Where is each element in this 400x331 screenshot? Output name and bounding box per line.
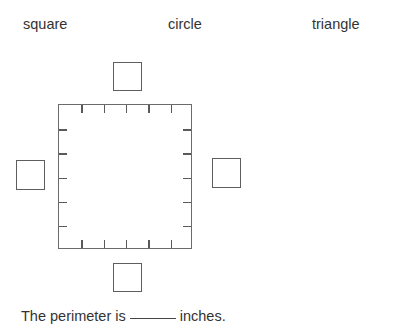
answer-box-left[interactable] [16,160,45,190]
tick-right-2 [183,153,191,154]
tick-top-5 [171,105,172,113]
tick-top-4 [148,105,149,113]
worksheet-page: square circle triangle [0,0,400,331]
tick-top-2 [104,105,105,113]
answer-box-bottom[interactable] [113,263,142,292]
tick-bottom-2 [104,240,105,248]
tick-left-4 [59,202,67,203]
tick-left-2 [59,153,67,154]
tick-right-4 [183,202,191,203]
tick-right-3 [183,178,191,179]
question-suffix: inches. [180,308,226,324]
answer-box-right[interactable] [212,158,241,188]
tick-right-5 [183,226,191,227]
tick-bottom-3 [126,240,127,248]
tick-bottom-4 [148,240,149,248]
tick-bottom-1 [81,240,82,248]
tick-left-3 [59,178,67,179]
tick-right-1 [183,129,191,130]
ruled-square-shape [58,104,192,249]
tick-top-3 [126,105,127,113]
tick-left-1 [59,129,67,130]
answer-box-top[interactable] [113,62,142,91]
perimeter-figure [0,0,400,331]
tick-bottom-5 [171,240,172,248]
tick-left-5 [59,226,67,227]
question-prefix: The perimeter is [21,308,126,324]
tick-top-1 [81,105,82,113]
perimeter-question: The perimeter isinches. [21,306,226,326]
perimeter-answer-blank[interactable] [130,306,176,319]
